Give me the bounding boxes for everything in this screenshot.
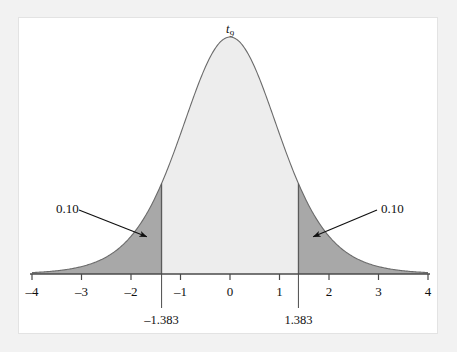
center-area-fill (162, 37, 299, 274)
left-tail-area-label: 0.10 (56, 202, 79, 215)
x-tick-label-0: 0 (227, 285, 234, 298)
x-tick-label-1: 1 (276, 285, 283, 298)
figure-screenshot: t9 –4 –3 –2 –1 0 1 2 3 4 –1.383 1.383 0.… (0, 0, 457, 352)
right-tail-fill (298, 184, 428, 274)
left-area-arrow (79, 210, 147, 237)
x-tick-label-2: 2 (326, 285, 333, 298)
x-axis-ticks (32, 274, 428, 280)
left-critical-value-label: –1.383 (144, 314, 178, 327)
distribution-areas (32, 37, 428, 274)
left-tail-fill (32, 184, 162, 274)
curve-label-subscript: 9 (229, 29, 234, 39)
right-area-arrow (313, 210, 377, 237)
x-tick-label--2: –2 (125, 285, 138, 298)
x-tick-label--1: –1 (174, 285, 187, 298)
right-tail-area-label: 0.10 (381, 202, 404, 215)
right-critical-value-label: 1.383 (284, 314, 312, 327)
x-tick-label--4: –4 (26, 285, 39, 298)
figure-card: t9 –4 –3 –2 –1 0 1 2 3 4 –1.383 1.383 0.… (19, 18, 437, 333)
curve-label: t9 (226, 23, 234, 39)
x-tick-label--3: –3 (75, 285, 88, 298)
x-tick-label-3: 3 (375, 285, 382, 298)
x-tick-label-4: 4 (425, 285, 432, 298)
